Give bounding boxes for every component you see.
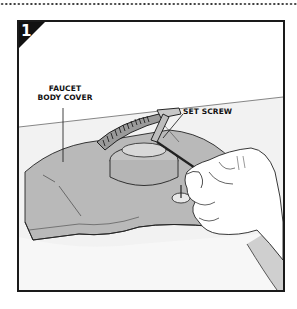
callout-line-1: FAUCET	[37, 84, 93, 93]
dotted-divider	[0, 3, 297, 5]
faucet-repair-illustration	[19, 22, 283, 290]
callout-faucet-body-cover: FAUCET BODY COVER	[37, 84, 93, 102]
callout-set-screw: SET SCREW	[183, 107, 232, 116]
callout-line-2: BODY COVER	[37, 93, 93, 102]
step-number: 1	[21, 22, 31, 40]
illustration-frame: 1 FAUCET BODY COVER SET SCREW	[17, 20, 285, 292]
